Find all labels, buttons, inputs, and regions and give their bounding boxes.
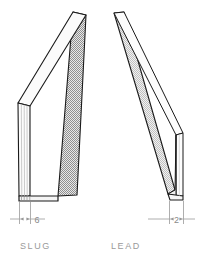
lead-dimension-value: 2 (174, 215, 179, 225)
technical-drawing-canvas: 6 (0, 0, 200, 258)
part-lead: 2 (114, 12, 195, 225)
parts-drawing-svg: 6 (0, 0, 200, 258)
slug-dim-arrow-left (20, 217, 24, 220)
captions-row: SLUG LEAD (0, 236, 200, 256)
caption-lead: LEAD (111, 240, 141, 252)
lead-dim-arrow-right (179, 217, 183, 220)
lead-dim-arrow-left (170, 217, 174, 220)
caption-slug: SLUG (20, 240, 51, 252)
slug-dim-arrow-right (26, 217, 30, 220)
slug-dimension-value: 6 (34, 215, 39, 225)
slug-extension-lines (20, 202, 31, 224)
lead-dimension-line: 2 (148, 215, 195, 225)
slug-bottom-face (19, 196, 58, 201)
part-slug: 6 (10, 12, 86, 225)
slug-dimension-line: 6 (10, 215, 45, 225)
